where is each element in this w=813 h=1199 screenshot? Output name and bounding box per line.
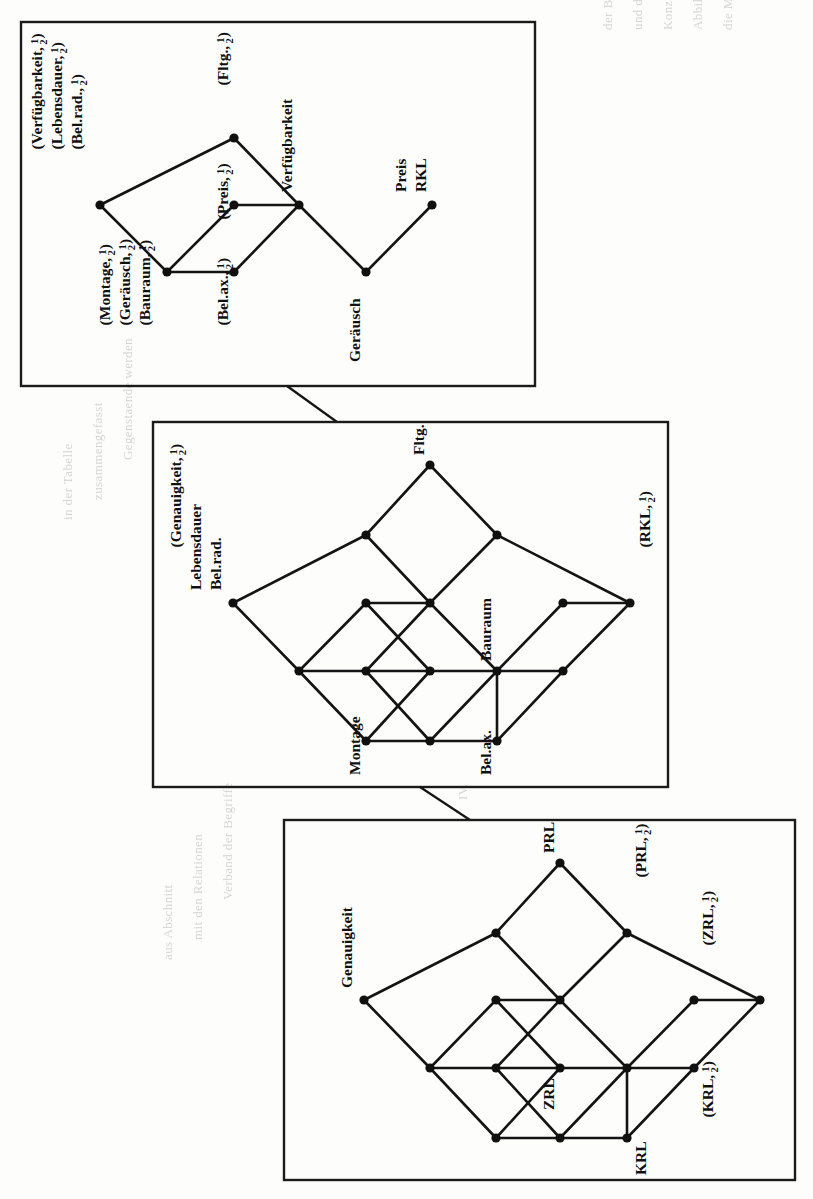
edge: [366, 205, 432, 272]
node-label-fltg: Fltg.: [410, 424, 427, 455]
node-label-prl-half: (PRL,12): [632, 789, 653, 920]
lattice-node[interactable]: [555, 995, 564, 1004]
lattice-node[interactable]: [162, 267, 171, 276]
lattice-node[interactable]: [425, 1063, 434, 1072]
edge: [560, 1068, 627, 1138]
node-label-rkl-half: (RKL,12): [636, 456, 657, 590]
lattice-node[interactable]: [689, 995, 698, 1004]
node-label-verfuegbarkeit: Verfügbarkeit: [278, 98, 295, 192]
figure-bottom-labels: Genauigkeit PRL (PRL,12) (ZRL,12) ZRL KR…: [338, 789, 720, 1175]
lattice-node[interactable]: [492, 666, 501, 675]
node-label-montage: Montage: [346, 716, 363, 775]
lattice-node[interactable]: [425, 666, 434, 675]
node-label-preis: Preis: [392, 159, 409, 192]
node-label-krl: KRL: [632, 1141, 649, 1175]
node-label-lebensdauer-half: (Lebensdauer,12): [48, 7, 69, 192]
lattice-node[interactable]: [689, 1063, 698, 1072]
edge: [497, 535, 630, 603]
node-label-bauraum: Bauraum: [477, 598, 494, 661]
node-label-bauraum-half: (Bauraum,12): [136, 205, 157, 368]
connector-middle-bottom: [420, 787, 470, 820]
lattice-node[interactable]: [558, 598, 567, 607]
lattice-node[interactable]: [294, 200, 303, 209]
edge: [496, 863, 560, 933]
edge: [233, 603, 299, 671]
lattice-node[interactable]: [361, 598, 370, 607]
node-label-fltg-half: (Fltg.,12): [214, 0, 235, 128]
lattice-node[interactable]: [555, 1133, 564, 1142]
node-label-geraeusch-half: (Geräusch,12): [116, 204, 137, 368]
lattice-node[interactable]: [622, 1133, 631, 1142]
lattice-node[interactable]: [558, 666, 567, 675]
edge: [299, 603, 366, 671]
node-label-zrl-half: (ZRL,12): [699, 856, 720, 988]
node-label-geraeusch: Geräusch: [346, 298, 363, 362]
edge: [497, 603, 563, 671]
lattice-node[interactable]: [555, 858, 564, 867]
lattice-node[interactable]: [359, 995, 368, 1004]
lattice-figures: (Verfügbarkeit,12) (Lebensdauer,12) (Bel…: [0, 0, 813, 1199]
edge: [563, 603, 630, 671]
node-label-verfuegbarkeit-half: (Verfügbarkeit,12): [28, 0, 49, 192]
lattice-node[interactable]: [95, 200, 104, 209]
lattice-node[interactable]: [491, 1063, 500, 1072]
node-label-belrad: Bel.rad.: [207, 537, 224, 590]
node-label-montage-half: (Montage,12): [96, 209, 117, 368]
edge: [430, 1068, 496, 1138]
lattice-node[interactable]: [622, 1063, 631, 1072]
edge: [627, 1000, 694, 1068]
node-label-rkl: RKL: [412, 158, 429, 192]
lattice-node[interactable]: [492, 530, 501, 539]
lattice-node[interactable]: [361, 530, 370, 539]
lattice-node[interactable]: [755, 995, 764, 1004]
edge: [364, 933, 496, 1000]
lattice-node[interactable]: [425, 460, 434, 469]
lattice-node[interactable]: [625, 598, 634, 607]
lattice-node[interactable]: [361, 267, 370, 276]
edge: [430, 1000, 496, 1068]
edge: [234, 205, 299, 272]
edge: [233, 535, 366, 603]
edge: [364, 1000, 430, 1068]
edge: [627, 933, 760, 1000]
figure-top-labels: (Verfügbarkeit,12) (Lebensdauer,12) (Bel…: [28, 0, 429, 368]
lattice-node[interactable]: [555, 1063, 564, 1072]
lattice-node[interactable]: [622, 928, 631, 937]
lattice-node[interactable]: [361, 666, 370, 675]
edge: [366, 465, 430, 535]
lattice-node[interactable]: [425, 736, 434, 745]
scanned-page: der Begriffsverband und der Kontext Konz…: [0, 0, 813, 1199]
edge: [430, 535, 497, 603]
lattice-node[interactable]: [228, 598, 237, 607]
node-label-zrl: ZRL: [540, 1078, 557, 1110]
figure-middle: (Genauigkeit,12) Lebensdauer Bel.rad. Fl…: [153, 409, 668, 787]
figure-top: (Verfügbarkeit,12) (Lebensdauer,12) (Bel…: [21, 0, 535, 386]
node-label-belrad-half: (Bel.rad.,12): [68, 39, 89, 192]
edge: [496, 933, 560, 1000]
edge: [560, 863, 627, 933]
node-label-genauigkeit-half: (Genauigkeit,12): [167, 409, 188, 590]
lattice-node[interactable]: [491, 1133, 500, 1142]
figure-bottom: Genauigkeit PRL (PRL,12) (ZRL,12) ZRL KR…: [284, 789, 795, 1180]
node-label-genauigkeit: Genauigkeit: [338, 906, 355, 988]
node-label-prl: PRL: [540, 822, 557, 853]
edge: [560, 933, 627, 1000]
edge: [430, 465, 497, 535]
edge: [366, 535, 430, 603]
node-label-belax-half: (Bel.ax.,12): [214, 223, 235, 368]
lattice-node[interactable]: [491, 995, 500, 1004]
node-label-lebensdauer: Lebensdauer: [187, 504, 204, 590]
edge: [627, 1068, 694, 1138]
node-label-belax: Bel.ax.: [477, 730, 494, 775]
lattice-node[interactable]: [427, 200, 436, 209]
edge: [497, 671, 563, 741]
lattice-node[interactable]: [491, 928, 500, 937]
edge: [299, 205, 366, 272]
lattice-node[interactable]: [425, 598, 434, 607]
connector-top-middle: [287, 386, 337, 422]
edge: [560, 1000, 627, 1068]
lattice-node[interactable]: [294, 666, 303, 675]
